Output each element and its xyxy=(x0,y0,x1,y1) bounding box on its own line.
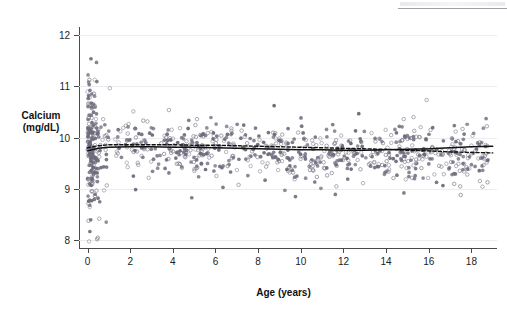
plot-area xyxy=(79,27,497,248)
x-tick-label-10: 10 xyxy=(295,256,306,267)
x-tick-8 xyxy=(258,248,259,253)
y-tick-label-12: 12 xyxy=(59,29,70,40)
y-axis-title: Calcium (mg/dL) xyxy=(10,110,72,134)
y-tick-label-8: 8 xyxy=(64,235,70,246)
x-tick-label-8: 8 xyxy=(255,256,261,267)
x-tick-label-18: 18 xyxy=(466,256,477,267)
figure-scatter-calcium-vs-age: Calcium (mg/dL) Age (years) 89101112 024… xyxy=(0,0,507,318)
x-tick-label-16: 16 xyxy=(423,256,434,267)
x-tick-2 xyxy=(130,248,131,253)
x-tick-16 xyxy=(429,248,430,253)
x-tick-label-2: 2 xyxy=(127,256,133,267)
y-tick-label-9: 9 xyxy=(64,183,70,194)
x-axis-title: Age (years) xyxy=(0,287,507,298)
x-tick-12 xyxy=(343,248,344,253)
x-tick-14 xyxy=(386,248,387,253)
x-tick-label-14: 14 xyxy=(381,256,392,267)
x-tick-label-6: 6 xyxy=(213,256,219,267)
page-artifact-text xyxy=(400,2,505,6)
x-tick-10 xyxy=(301,248,302,253)
y-tick-label-10: 10 xyxy=(59,132,70,143)
x-tick-4 xyxy=(173,248,174,253)
page-rule-top xyxy=(398,8,507,9)
x-tick-18 xyxy=(471,248,472,253)
x-tick-label-4: 4 xyxy=(170,256,176,267)
x-axis-title-text: Age (years) xyxy=(256,287,310,298)
trend-lines-layer xyxy=(79,27,497,248)
x-tick-0 xyxy=(88,248,89,253)
y-tick-label-11: 11 xyxy=(60,81,70,92)
x-axis-line xyxy=(79,248,497,249)
x-tick-6 xyxy=(215,248,216,253)
x-tick-label-12: 12 xyxy=(338,256,349,267)
y-axis-title-line1: Calcium xyxy=(10,110,72,122)
x-tick-label-0: 0 xyxy=(85,256,91,267)
